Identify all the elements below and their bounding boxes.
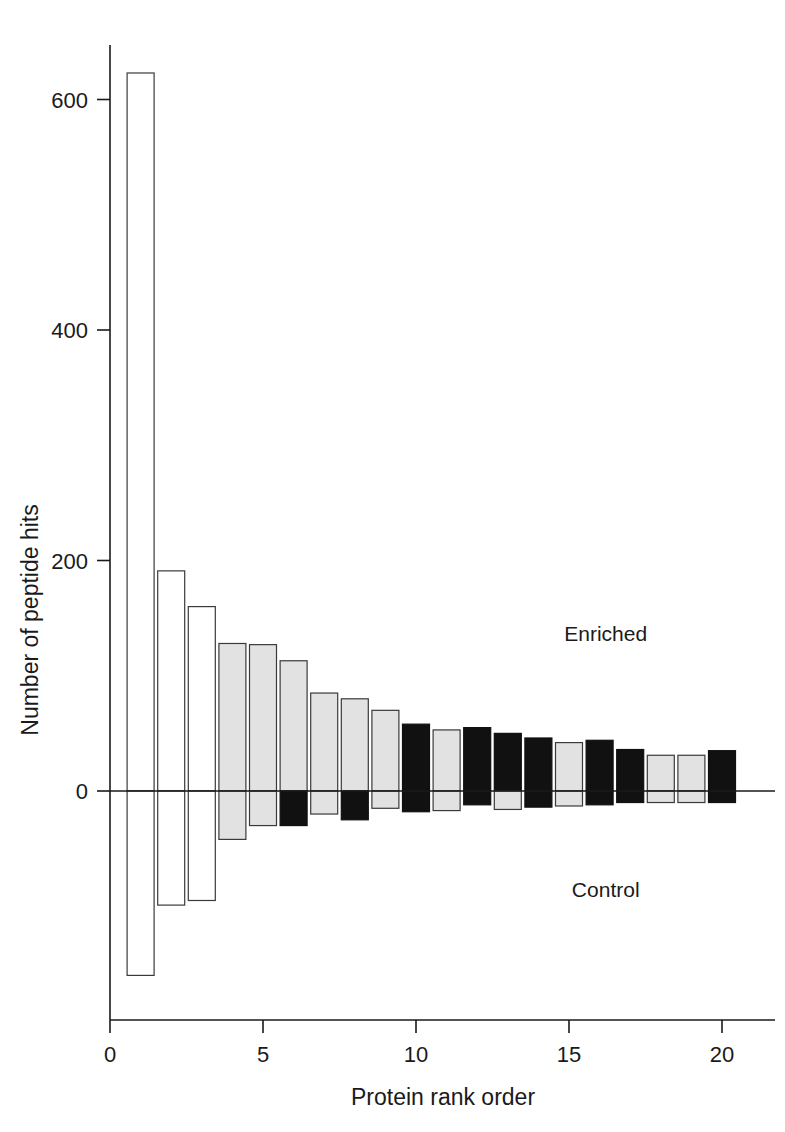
bar-enriched [158, 571, 185, 791]
bar-enriched [617, 750, 644, 791]
bar-group [647, 755, 674, 802]
bar-group [494, 733, 521, 809]
bar-enriched [127, 73, 154, 791]
x-tick-label: 20 [710, 1042, 734, 1067]
bar-enriched [250, 645, 277, 791]
bar-group [219, 643, 246, 839]
bar-control [494, 791, 521, 809]
bar-control [250, 791, 277, 826]
y-axis: 0200400600 [51, 45, 110, 1020]
bar-enriched [372, 710, 399, 791]
bar-group [617, 750, 644, 803]
chart-figure: 0200400600 05101520 EnrichedControl Prot… [0, 0, 785, 1132]
bar-control [556, 791, 583, 806]
bar-control [433, 791, 460, 811]
bar-group [372, 710, 399, 808]
bar-control [311, 791, 338, 814]
bar-group [341, 699, 368, 820]
bar-group [280, 661, 307, 826]
bar-control [464, 791, 491, 805]
bar-group [586, 740, 613, 805]
bar-control [280, 791, 307, 826]
bar-control [372, 791, 399, 808]
x-axis: 05101520 [104, 1020, 775, 1067]
bar-control [403, 791, 430, 812]
x-tick-marks [110, 1020, 722, 1033]
bar-enriched [433, 730, 460, 791]
x-tick-label: 0 [104, 1042, 116, 1067]
y-tick-label: 600 [51, 88, 88, 113]
y-tick-marks [97, 100, 110, 792]
bar-control [647, 791, 674, 803]
x-axis-title: Protein rank order [351, 1084, 535, 1110]
x-tick-label: 15 [557, 1042, 581, 1067]
y-tick-label: 400 [51, 318, 88, 343]
bar-group [464, 728, 491, 805]
bar-group [556, 743, 583, 806]
bar-enriched [280, 661, 307, 791]
x-tick-labels: 05101520 [104, 1042, 734, 1067]
bar-enriched [678, 755, 705, 791]
bar-enriched [556, 743, 583, 791]
bar-group [311, 693, 338, 814]
bar-group [127, 73, 154, 975]
bar-enriched [188, 607, 215, 791]
bar-chart-svg: 0200400600 05101520 EnrichedControl Prot… [0, 0, 785, 1132]
chart-annotation: Control [572, 878, 640, 901]
bar-control [586, 791, 613, 805]
bar-control [158, 791, 185, 905]
bar-enriched [311, 693, 338, 791]
bar-group [678, 755, 705, 802]
bar-enriched [586, 740, 613, 791]
bar-enriched [341, 699, 368, 791]
bar-group [525, 738, 552, 807]
x-tick-label: 10 [404, 1042, 428, 1067]
bar-group [250, 645, 277, 826]
bar-control [709, 791, 736, 803]
bar-control [219, 791, 246, 839]
bar-group [433, 730, 460, 811]
y-tick-label: 200 [51, 549, 88, 574]
bar-group [403, 724, 430, 812]
bar-control [678, 791, 705, 803]
x-tick-label: 5 [257, 1042, 269, 1067]
bar-enriched [494, 733, 521, 791]
bar-group [709, 751, 736, 803]
y-axis-title: Number of peptide hits [17, 504, 43, 735]
bar-enriched [219, 643, 246, 791]
bar-group [188, 607, 215, 901]
plot-bars [127, 73, 735, 975]
bar-enriched [709, 751, 736, 791]
y-tick-labels: 0200400600 [51, 88, 88, 805]
bar-enriched [403, 724, 430, 791]
y-tick-label: 0 [76, 779, 88, 804]
bar-control [525, 791, 552, 807]
bar-enriched [647, 755, 674, 791]
bar-control [188, 791, 215, 900]
bar-control [127, 791, 154, 975]
bar-control [617, 791, 644, 803]
bar-enriched [525, 738, 552, 791]
chart-annotation: Enriched [564, 622, 647, 645]
bar-group [158, 571, 185, 905]
bar-enriched [464, 728, 491, 791]
bar-control [341, 791, 368, 820]
